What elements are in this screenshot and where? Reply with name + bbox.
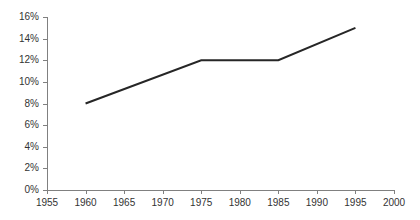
x-axis-tick-label: 1985: [258, 197, 298, 208]
chart-canvas: [0, 0, 420, 220]
x-axis-tick-label: 1970: [143, 197, 183, 208]
x-axis-ticks: [48, 190, 395, 194]
y-axis-tick-label: 14%: [0, 33, 39, 44]
y-axis-tick-label: 12%: [0, 54, 39, 65]
x-axis-tick-label: 1960: [66, 197, 106, 208]
y-axis-ticks: [43, 18, 47, 191]
x-axis-tick-label: 1965: [104, 197, 144, 208]
series-group: [86, 28, 356, 104]
line-chart: 0%2%4%6%8%10%12%14%16% 19551960196519701…: [0, 0, 420, 220]
x-axis-tick-label: 1980: [220, 197, 260, 208]
y-axis-tick-label: 10%: [0, 76, 39, 87]
data-series-line: [86, 28, 356, 104]
y-axis-tick-label: 2%: [0, 162, 39, 173]
y-axis-tick-label: 16%: [0, 11, 39, 22]
axes-group: [47, 17, 394, 190]
x-axis-tick-label: 2000: [374, 197, 414, 208]
y-axis-tick-label: 0%: [0, 184, 39, 195]
y-axis-tick-label: 4%: [0, 141, 39, 152]
x-axis-tick-label: 1975: [181, 197, 221, 208]
x-axis-tick-label: 1955: [27, 197, 67, 208]
y-axis-tick-label: 8%: [0, 98, 39, 109]
y-axis-tick-label: 6%: [0, 119, 39, 130]
x-axis-tick-label: 1995: [335, 197, 375, 208]
x-axis-tick-label: 1990: [297, 197, 337, 208]
